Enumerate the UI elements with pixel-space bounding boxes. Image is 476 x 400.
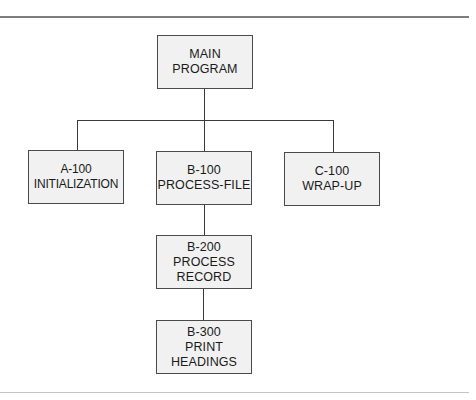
- node-b300-line-1: B-300: [187, 325, 221, 340]
- node-b100-line-1: B-100: [187, 163, 221, 178]
- node-b300-print-headings: B-300 PRINT HEADINGS: [156, 320, 252, 374]
- connector-b200-to-b300: [203, 289, 204, 320]
- node-a100-line-1: A-100: [60, 162, 91, 177]
- node-a100-initialization: A-100 INITIALIZATION: [28, 150, 124, 204]
- top-rule: [0, 16, 469, 18]
- node-b300-line-2: PRINT: [185, 340, 223, 355]
- node-c100-line-2: WRAP-UP: [302, 179, 362, 194]
- node-b200-line-2: PROCESS: [173, 255, 235, 270]
- connector-to-a100: [77, 120, 78, 150]
- node-a100-line-2: INITIALIZATION: [34, 177, 118, 192]
- node-b200-line-1: B-200: [187, 240, 221, 255]
- connector-b100-to-b200: [204, 205, 205, 235]
- node-b100-process-file: B-100 PROCESS-FILE: [156, 151, 252, 205]
- bottom-rule: [0, 392, 469, 393]
- connector-to-b100: [204, 120, 205, 151]
- node-b100-line-2: PROCESS-FILE: [158, 178, 251, 193]
- node-b200-line-3: RECORD: [177, 270, 232, 285]
- node-main-line-2: PROGRAM: [172, 62, 237, 77]
- connector-main-down: [204, 89, 205, 120]
- node-b200-process-record: B-200 PROCESS RECORD: [156, 235, 252, 289]
- node-c100-line-1: C-100: [315, 164, 350, 179]
- connector-to-c100: [333, 120, 334, 152]
- node-b300-line-3: HEADINGS: [171, 355, 237, 370]
- node-main-program: MAIN PROGRAM: [157, 35, 253, 89]
- node-c100-wrap-up: C-100 WRAP-UP: [284, 152, 380, 206]
- node-main-line-1: MAIN: [189, 47, 221, 62]
- connector-horizontal-bar: [77, 120, 334, 121]
